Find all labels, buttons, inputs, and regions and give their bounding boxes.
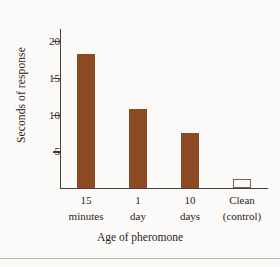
x-category-label: Clean (control) bbox=[211, 193, 273, 224]
bar bbox=[77, 54, 95, 188]
x-category-line1: Clean bbox=[211, 193, 273, 209]
pheromone-response-bar-chart: Seconds of response 5 10 15 20 15 bbox=[0, 0, 280, 267]
x-axis-line bbox=[60, 188, 268, 189]
bar bbox=[181, 133, 199, 188]
figure-bottom-rule bbox=[0, 258, 280, 259]
bar-series bbox=[0, 0, 280, 188]
bar bbox=[233, 179, 251, 188]
bar bbox=[129, 109, 147, 188]
plot-area: 5 10 15 20 15 minutes 1 day 10 bbox=[0, 0, 280, 267]
x-axis-title: Age of pheromone bbox=[0, 231, 280, 243]
x-category-line2: (control) bbox=[211, 209, 273, 225]
